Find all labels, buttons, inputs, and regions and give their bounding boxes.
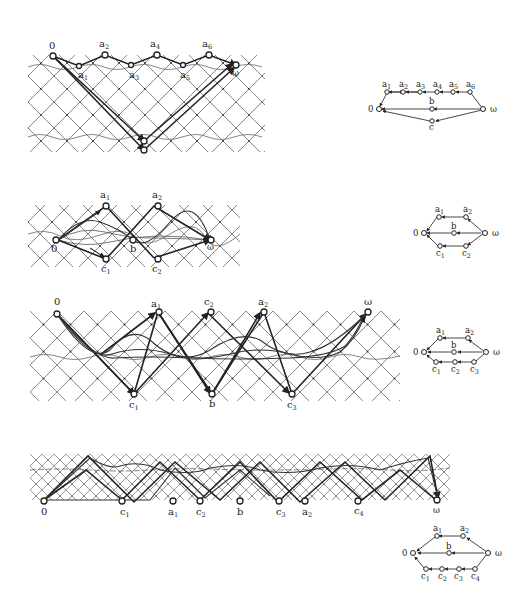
node-bottom-2 <box>141 147 147 153</box>
label-a2: a2 <box>152 189 162 202</box>
figure-3-graph: a1 a2 0 b c1 c2 c3 ω <box>413 325 500 376</box>
g3-label-omega: ω <box>493 347 500 357</box>
label-a1: a1 <box>100 189 110 202</box>
g1-label-0: 0 <box>368 104 373 114</box>
g4-label-c3: c3 <box>454 571 463 583</box>
node-omega <box>434 497 440 503</box>
g3-label-c1: c1 <box>432 364 441 376</box>
g4-node-omega <box>486 551 491 556</box>
figure-2-lattice: a1 a2 0 b ω c1 c2 <box>28 189 240 276</box>
g2-node-b <box>452 231 457 236</box>
g4-node-0 <box>411 551 416 556</box>
g3-label-a2: a2 <box>465 325 474 337</box>
label-0: 0 <box>41 506 47 517</box>
g1-label-a5: a5 <box>449 79 458 91</box>
node-c1 <box>119 498 125 504</box>
label-a1: a1 <box>151 298 161 311</box>
label-0: 0 <box>54 296 60 307</box>
g3-label-c3: c3 <box>470 364 479 376</box>
label-c2: c2 <box>196 506 206 519</box>
figure-3-lattice: 0 a1 c2 a2 ω c1 b c3 <box>30 296 400 412</box>
g2-label-c1: c1 <box>436 248 445 260</box>
g4-label-a2: a2 <box>460 523 469 535</box>
g2-label-omega: ω <box>492 228 499 238</box>
g1-label-a4: a4 <box>433 79 442 91</box>
node-b <box>209 391 215 397</box>
figure-4-graph: a1 a2 0 b c1 c2 c3 c4 ω <box>402 523 502 583</box>
g3-label-b: b <box>451 340 457 350</box>
label-omega: ω <box>207 242 214 252</box>
label-b: b <box>209 398 215 409</box>
label-b: b <box>130 243 136 254</box>
g4-label-b: b <box>446 541 452 551</box>
node-a2 <box>102 52 108 58</box>
g4-label-a1: a1 <box>433 523 442 535</box>
label-c1: c1 <box>120 506 130 519</box>
node-0 <box>54 311 60 317</box>
g3-node-b <box>452 350 457 355</box>
g4-node-b <box>447 551 452 556</box>
node-a6 <box>206 52 212 58</box>
g1-label-omega: ω <box>490 104 497 114</box>
figure-1-graph: a1 a2 a3 a4 a5 a6 0 b c ω <box>368 79 497 132</box>
g4-label-c2: c2 <box>438 571 447 583</box>
figure-canvas: 0 a2 a4 a6 a1 a3 a5 ω a1 a2 <box>0 0 525 601</box>
node-c2 <box>155 256 161 262</box>
node-omega <box>365 309 371 315</box>
figure-1-lattice: 0 a2 a4 a6 a1 a3 a5 ω <box>28 38 265 153</box>
g3-node-0 <box>422 350 427 355</box>
node-a5 <box>181 63 186 68</box>
g4-label-c1: c1 <box>421 571 430 583</box>
node-c4 <box>355 498 361 504</box>
label-0: 0 <box>49 40 55 51</box>
g1-node-omega <box>481 107 486 112</box>
g3-node-omega <box>484 350 489 355</box>
g1-label-a3: a3 <box>416 79 425 91</box>
node-a2 <box>261 309 267 315</box>
g1-label-a6: a6 <box>466 79 475 91</box>
g4-label-0: 0 <box>402 548 407 558</box>
g1-label-c: c <box>429 122 434 132</box>
node-0 <box>41 498 47 504</box>
label-c2: c2 <box>204 296 214 309</box>
g2-label-a2: a2 <box>463 204 472 216</box>
label-omega: ω <box>433 505 440 515</box>
label-a2: a2 <box>258 296 268 309</box>
g1-label-b: b <box>429 96 435 106</box>
g2-label-a1: a1 <box>435 204 444 216</box>
g1-node-b <box>430 107 434 111</box>
label-a2: a2 <box>99 38 109 51</box>
g3-label-0: 0 <box>413 347 418 357</box>
g1-label-a1: a1 <box>382 79 391 91</box>
g2-node-omega <box>483 231 488 236</box>
g2-label-b: b <box>451 221 457 231</box>
node-a1 <box>103 203 109 209</box>
node-c1 <box>103 256 109 262</box>
node-bottom-1 <box>141 138 147 144</box>
node-c2 <box>208 309 214 315</box>
g2-label-0: 0 <box>413 228 418 238</box>
g1-label-a2: a2 <box>399 79 408 91</box>
node-c1 <box>131 391 137 397</box>
label-a2: a2 <box>302 506 312 519</box>
node-a1 <box>170 498 176 504</box>
node-0 <box>50 53 56 59</box>
node-c2 <box>197 498 203 504</box>
node-c3 <box>276 498 282 504</box>
node-c3 <box>289 391 295 397</box>
figure-4-lattice: 0 c1 a1 c2 b c3 a2 c4 ω <box>30 454 450 519</box>
g1-node-0 <box>377 107 382 112</box>
g2-node-0 <box>422 231 427 236</box>
node-b <box>237 498 243 504</box>
label-a6: a6 <box>202 38 212 51</box>
node-a3 <box>129 63 134 68</box>
g2-label-c2: c2 <box>462 248 471 260</box>
label-a1: a1 <box>168 506 178 519</box>
label-a4: a4 <box>150 38 160 51</box>
g3-label-a1: a1 <box>436 325 445 337</box>
node-a2 <box>155 203 161 209</box>
label-omega: ω <box>364 296 372 307</box>
node-a1 <box>77 64 82 69</box>
label-c3: c3 <box>276 506 286 519</box>
g3-label-c2: c2 <box>451 364 460 376</box>
